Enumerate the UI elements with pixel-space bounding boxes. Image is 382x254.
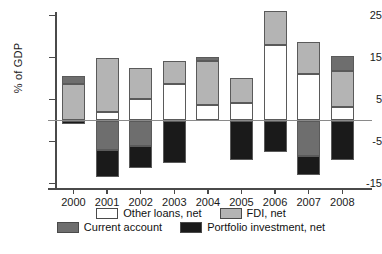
legend-label: Portfolio investment, net: [207, 221, 325, 233]
bar-segment: [297, 74, 320, 120]
bar-segment: [264, 11, 287, 45]
bar-segment: [62, 121, 85, 124]
bar-segment: [129, 68, 152, 98]
bar-segment: [331, 107, 354, 120]
bar-2005: [230, 12, 253, 188]
x-tick-mark: [342, 188, 344, 194]
bar-2004: [196, 12, 219, 188]
legend-row-top: Other loans, netFDI, net: [0, 207, 382, 219]
bar-segment: [129, 99, 152, 121]
bar-2003: [163, 12, 186, 188]
y-axis-line: [55, 12, 57, 189]
x-tick-mark: [274, 188, 276, 194]
legend-item: FDI, net: [220, 207, 286, 219]
bar-segment: [196, 61, 219, 105]
legend-label: Current account: [84, 221, 162, 233]
bar-segment: [264, 121, 287, 153]
bar-segment: [331, 71, 354, 108]
bar-segment: [230, 121, 253, 161]
bar-segment: [129, 146, 152, 168]
bar-segment: [96, 150, 119, 177]
bar-segment: [163, 121, 186, 163]
x-axis-line: [48, 188, 372, 190]
bar-segment: [96, 112, 119, 120]
bar-segment: [331, 121, 354, 161]
x-tick-mark: [140, 188, 142, 194]
bar-segment: [297, 121, 320, 157]
bar-2008: [331, 12, 354, 188]
legend-row-bottom: Current accountPortfolio investment, net: [0, 221, 382, 233]
legend-label: FDI, net: [247, 207, 286, 219]
y-tick-mark: [49, 99, 56, 101]
legend-label: Other loans, net: [123, 207, 201, 219]
legend-swatch-icon: [180, 222, 202, 233]
x-tick-mark: [73, 188, 75, 194]
bar-2000: [62, 12, 85, 188]
bar-2001: [96, 12, 119, 188]
legend-swatch-icon: [96, 208, 118, 219]
bar-segment: [297, 156, 320, 175]
bar-segment: [196, 57, 219, 62]
bar-segment: [96, 58, 119, 113]
bar-segment: [230, 78, 253, 104]
y-tick-mark: [49, 15, 56, 17]
bar-2007: [297, 12, 320, 188]
x-tick-mark: [174, 188, 176, 194]
y-tick-mark: [49, 57, 56, 59]
bar-segment: [163, 84, 186, 121]
bar-segment: [230, 103, 253, 120]
bar-segment: [62, 84, 85, 120]
y-tick-mark: [49, 141, 56, 143]
bar-segment: [96, 121, 119, 150]
chart-container: % of GDP 25155-5-15 20002001200220032004…: [0, 0, 382, 254]
bar-2006: [264, 12, 287, 188]
x-tick-mark: [241, 188, 243, 194]
x-tick-mark: [207, 188, 209, 194]
x-tick-mark: [308, 188, 310, 194]
bar-segment: [331, 56, 354, 71]
bar-2002: [129, 12, 152, 188]
legend-item: Current account: [57, 221, 162, 233]
y-tick-mark: [49, 183, 56, 185]
bar-segment: [297, 42, 320, 74]
bar-segment: [196, 105, 219, 120]
y-axis-title: % of GDP: [12, 28, 24, 108]
bar-segment: [62, 76, 85, 84]
legend-swatch-icon: [57, 222, 79, 233]
bar-segment: [163, 61, 186, 84]
bar-segment: [129, 121, 152, 146]
x-tick-mark: [106, 188, 108, 194]
bar-segment: [264, 45, 287, 121]
legend: Other loans, netFDI, net Current account…: [0, 205, 382, 233]
legend-item: Other loans, net: [96, 207, 201, 219]
legend-swatch-icon: [220, 208, 242, 219]
legend-item: Portfolio investment, net: [180, 221, 325, 233]
